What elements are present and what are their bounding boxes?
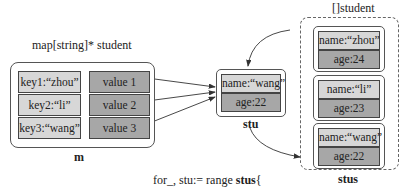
- slice-name-label: stus: [338, 172, 358, 187]
- slice-item-1-name: name:“zhou”: [318, 31, 380, 50]
- slice-item-3-age: age:22: [318, 147, 380, 166]
- map-key-2: key2:“li”: [18, 94, 81, 116]
- map-key-1: key1:“zhou”: [18, 71, 81, 93]
- map-value-3: value 3: [89, 117, 150, 139]
- pointer-arrow-value1: [147, 78, 215, 87]
- stu-age-field: age:22: [221, 93, 281, 112]
- slice-item-2: name:“li” age:23: [313, 75, 385, 121]
- copy-arrow-to-stu: [248, 30, 290, 66]
- map-type-label: map[string]* student: [32, 38, 132, 53]
- map-key-3: key3:“wang”: [18, 117, 81, 139]
- stu-struct: name:“wang” age:22: [216, 69, 286, 117]
- slice-item-3: name:“wang” age:22: [313, 123, 385, 169]
- code-snippet: for_, stu:= range stus{ m[stu.Name] = &s…: [153, 145, 265, 190]
- stu-name-field: name:“wang”: [221, 74, 281, 93]
- slice-item-1: name:“zhou” age:24: [313, 26, 385, 72]
- slice-type-label: []student: [332, 1, 375, 16]
- slice-item-3-name: name:“wang”: [318, 128, 380, 147]
- map-value-2: value 2: [89, 94, 150, 116]
- stu-name-label: stu: [243, 117, 258, 132]
- map-name-label: m: [74, 150, 84, 165]
- slice-item-1-age: age:24: [318, 50, 380, 69]
- pointer-arrow-value2: [147, 92, 215, 101]
- map-container: key1:“zhou” value 1 key2:“li” value 2 ke…: [10, 62, 155, 148]
- map-value-1: value 1: [89, 71, 150, 93]
- code-line-1: for_, stu:= range stus{: [153, 173, 265, 187]
- slice-item-2-name: name:“li”: [318, 80, 380, 99]
- slice-item-2-age: age:23: [318, 99, 380, 118]
- pointer-arrow-value3: [147, 97, 215, 124]
